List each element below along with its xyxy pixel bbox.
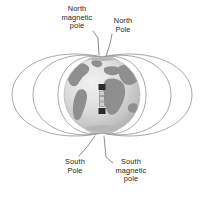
- label-south-magnetic-pole: South magnetic pole: [103, 158, 159, 184]
- magnet-body-upper: [100, 91, 105, 96]
- label-north-magnetic-pole: North magnetic pole: [49, 5, 105, 31]
- magnet-body-lower: [100, 102, 105, 107]
- magnet-pole-south: [99, 108, 106, 114]
- leader-south-pole: [79, 136, 95, 156]
- internal-bar-magnet: [99, 84, 106, 114]
- leader-north-magnetic-pole: [93, 31, 99, 55]
- magnet-body-middle: [100, 97, 105, 102]
- magnetic-field-figure: North magnetic pole North Pole South Pol…: [0, 0, 201, 198]
- magnet-pole-north: [99, 84, 106, 90]
- label-north-pole: North Pole: [104, 17, 142, 34]
- label-south-pole: South Pole: [56, 158, 94, 175]
- leader-north-pole: [106, 34, 112, 56]
